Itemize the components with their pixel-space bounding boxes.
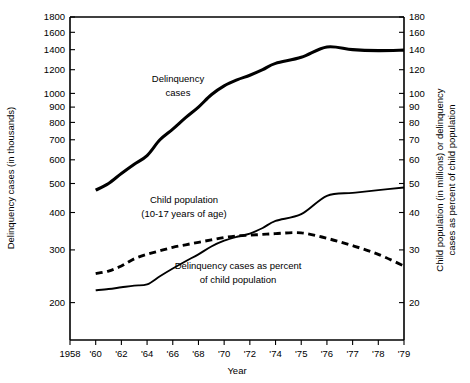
x-tick-label: '62 (115, 348, 127, 359)
x-tick-label: '75 (295, 348, 307, 359)
right-tick-label: 50 (409, 178, 420, 189)
x-axis-title: Year (227, 365, 246, 376)
left-tick-label: 200 (49, 297, 65, 308)
left-tick-label: 400 (49, 207, 65, 218)
annotation-delinquency-cases-line1: Delinquency (152, 73, 205, 84)
x-axis-ticks: 1958'60'62'64'66'68'70'72'74'75'76'77'78… (59, 340, 410, 359)
left-tick-label: 800 (49, 117, 65, 128)
left-tick-label: 1600 (44, 27, 65, 38)
y2-axis-title: Child population (in millions) or delinq… (434, 88, 457, 271)
left-tick-label: 1200 (44, 64, 65, 75)
chart-canvas: 1800160014001200100090080070060050040030… (0, 0, 470, 383)
y-axis-title: Delinquency cases (in thousands) (5, 107, 16, 250)
x-tick-label: '74 (269, 348, 281, 359)
right-tick-label: 100 (409, 88, 425, 99)
right-tick-label: 60 (409, 154, 420, 165)
left-tick-label: 1800 (44, 11, 65, 22)
right-tick-label: 40 (409, 207, 420, 218)
right-tick-label: 90 (409, 101, 420, 112)
right-tick-label: 160 (409, 27, 425, 38)
left-tick-label: 500 (49, 178, 65, 189)
series-line-0 (96, 47, 404, 191)
left-tick-label: 900 (49, 101, 65, 112)
annotation-percent-line2: of child population (200, 274, 277, 285)
right-tick-label: 30 (409, 244, 420, 255)
x-tick-label: 1958 (59, 348, 80, 359)
annotation-child-population-line1: Child population (150, 194, 218, 205)
right-axis-ticks: 1801601401201009080706050403020 (399, 11, 425, 308)
annotation-percent-line1: Delinquency cases as percent (175, 260, 302, 271)
left-tick-label: 1400 (44, 44, 65, 55)
y2-axis-title-line2: cases as percent of child population (446, 104, 457, 255)
y2-axis-title-line1: Child population (in millions) or delinq… (434, 88, 445, 271)
annotation-child-population-line2: (10-17 years of age) (141, 208, 227, 219)
right-tick-label: 120 (409, 64, 425, 75)
x-tick-label: '76 (321, 348, 333, 359)
left-tick-label: 600 (49, 154, 65, 165)
annotation-delinquency-cases-line2: cases (166, 87, 191, 98)
x-tick-label: '68 (192, 348, 204, 359)
right-tick-label: 70 (409, 134, 420, 145)
plot-frame (70, 17, 404, 340)
right-tick-label: 180 (409, 11, 425, 22)
delinquency-chart-figure: 1800160014001200100090080070060050040030… (0, 0, 470, 383)
left-tick-label: 700 (49, 134, 65, 145)
left-tick-label: 1000 (44, 88, 65, 99)
annotation-percent-of-child-population: Delinquency cases as percent of child po… (175, 260, 302, 285)
right-tick-label: 20 (409, 297, 420, 308)
left-tick-label: 300 (49, 244, 65, 255)
right-tick-label: 140 (409, 44, 425, 55)
series-lines (96, 47, 404, 291)
x-tick-label: '66 (167, 348, 179, 359)
x-tick-label: '77 (346, 348, 358, 359)
right-tick-label: 80 (409, 117, 420, 128)
x-tick-label: '70 (218, 348, 230, 359)
x-tick-label: '60 (89, 348, 101, 359)
x-tick-label: '78 (372, 348, 384, 359)
x-tick-label: '64 (141, 348, 153, 359)
annotation-child-population: Child population (10-17 years of age) (141, 194, 227, 219)
x-tick-label: '72 (244, 348, 256, 359)
x-tick-label: '79 (398, 348, 410, 359)
annotation-delinquency-cases: Delinquency cases (152, 73, 205, 98)
